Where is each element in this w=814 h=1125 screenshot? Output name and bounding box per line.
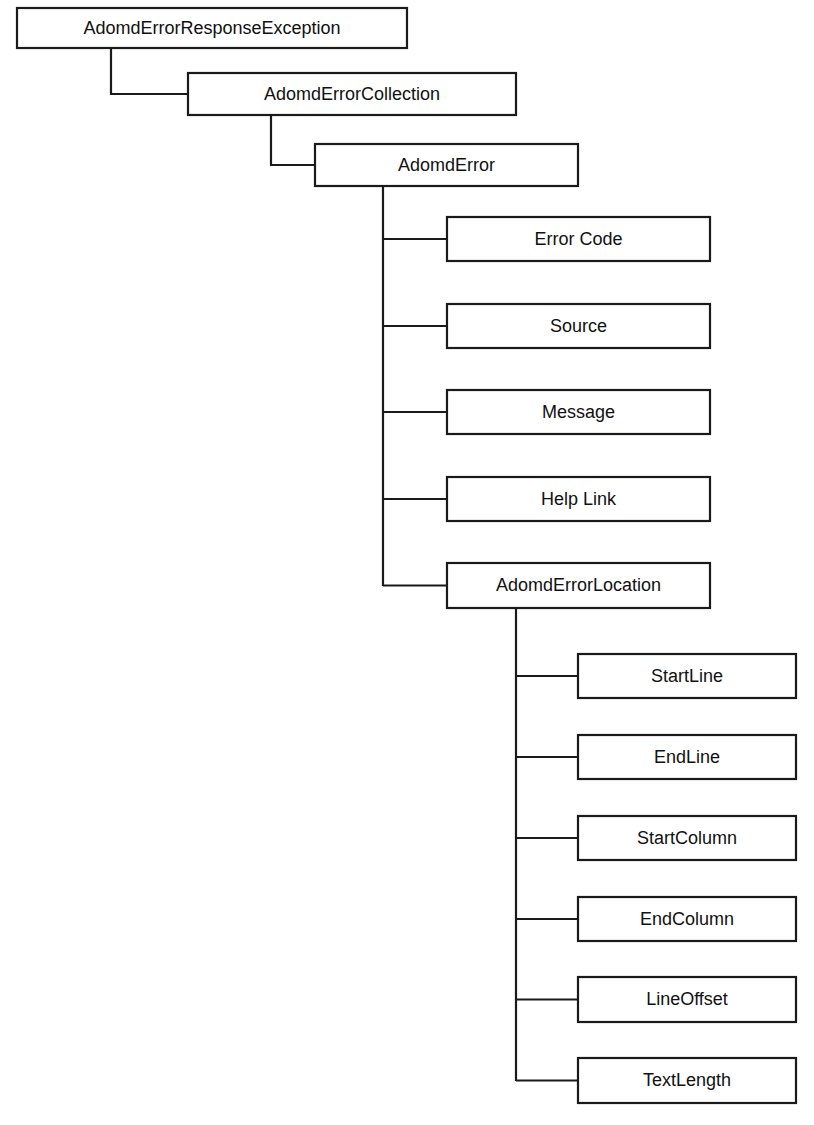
node-help-link: Help Link: [447, 477, 710, 521]
node-source: Source: [447, 304, 710, 348]
node-label-adomd-error-response-exception: AdomdErrorResponseException: [83, 18, 340, 38]
node-label-help-link: Help Link: [541, 489, 617, 509]
node-adomd-error-collection: AdomdErrorCollection: [188, 73, 516, 115]
node-line-offset: LineOffset: [578, 977, 796, 1022]
node-start-line: StartLine: [578, 654, 796, 698]
node-label-start-line: StartLine: [651, 666, 723, 686]
node-message: Message: [447, 390, 710, 434]
node-label-line-offset: LineOffset: [646, 989, 728, 1009]
node-label-end-line: EndLine: [654, 747, 720, 767]
node-adomd-error: AdomdError: [315, 144, 578, 186]
node-end-column: EndColumn: [578, 897, 796, 941]
node-label-start-column: StartColumn: [637, 828, 737, 848]
node-label-source: Source: [550, 316, 607, 336]
node-error-code: Error Code: [447, 217, 710, 261]
class-hierarchy-diagram: AdomdErrorResponseExceptionAdomdErrorCol…: [0, 0, 814, 1125]
node-label-adomd-error: AdomdError: [398, 155, 495, 175]
node-label-error-code: Error Code: [534, 229, 622, 249]
node-text-length: TextLength: [578, 1058, 796, 1103]
node-start-column: StartColumn: [578, 816, 796, 860]
node-adomd-error-response-exception: AdomdErrorResponseException: [17, 8, 407, 48]
node-label-end-column: EndColumn: [640, 909, 734, 929]
node-label-text-length: TextLength: [643, 1070, 731, 1090]
node-end-line: EndLine: [578, 735, 796, 779]
node-label-adomd-error-location: AdomdErrorLocation: [496, 575, 661, 595]
node-label-adomd-error-collection: AdomdErrorCollection: [264, 84, 440, 104]
hierarchy-canvas: AdomdErrorResponseExceptionAdomdErrorCol…: [0, 0, 814, 1125]
node-label-message: Message: [542, 402, 615, 422]
node-adomd-error-location: AdomdErrorLocation: [447, 563, 710, 608]
